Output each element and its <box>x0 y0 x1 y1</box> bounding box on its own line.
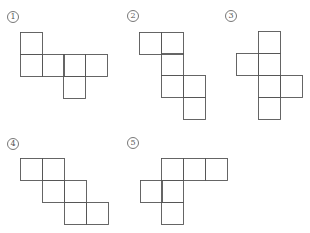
net-square <box>64 55 86 77</box>
net-square <box>259 76 281 98</box>
net-square <box>21 159 43 181</box>
net-square <box>184 159 206 181</box>
figure-label-1: 1 <box>7 11 19 23</box>
net-square <box>259 32 281 54</box>
net-square <box>86 55 108 77</box>
net-square <box>259 54 281 76</box>
net-figure-3 <box>237 32 303 120</box>
figure-label-4: 4 <box>7 138 19 150</box>
net-square <box>21 33 43 55</box>
cube-nets-diagram <box>0 0 310 233</box>
net-square <box>64 77 86 99</box>
net-figure-1 <box>21 33 108 99</box>
net-figure-4 <box>21 159 109 225</box>
net-square <box>184 98 206 120</box>
net-square <box>206 159 228 181</box>
net-square <box>141 181 163 203</box>
net-square <box>162 33 184 55</box>
net-square <box>162 203 184 225</box>
net-square <box>21 55 43 77</box>
net-square <box>87 203 109 225</box>
net-square <box>43 55 65 77</box>
net-square <box>237 54 259 76</box>
net-square <box>259 98 281 120</box>
net-square <box>43 159 65 181</box>
net-square <box>65 181 87 203</box>
net-figure-5 <box>141 159 228 225</box>
net-square <box>162 181 184 203</box>
net-square <box>43 181 65 203</box>
net-square <box>184 76 206 98</box>
net-square <box>162 76 184 98</box>
net-figure-2 <box>140 33 206 120</box>
net-square <box>281 76 303 98</box>
net-square <box>140 33 162 55</box>
figure-label-3: 3 <box>225 10 237 22</box>
net-square <box>162 159 184 181</box>
net-square <box>65 203 87 225</box>
net-square <box>162 54 184 76</box>
figure-label-5: 5 <box>127 137 139 149</box>
figure-label-2: 2 <box>127 10 139 22</box>
